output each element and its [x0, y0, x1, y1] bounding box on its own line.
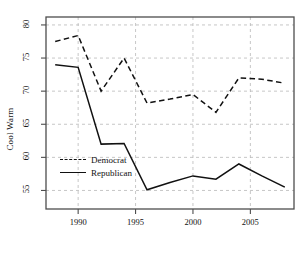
plot-area: [0, 0, 305, 257]
plot-frame: [46, 17, 294, 209]
gridlines: [46, 17, 294, 209]
data-series: [55, 36, 285, 190]
plot-frame-rect: [46, 17, 294, 209]
chart-figure: Cool Warm 556065707580 1990199520002005 …: [0, 0, 305, 257]
